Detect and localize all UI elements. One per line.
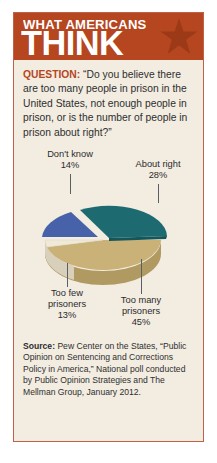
pie-chart: Don't know 14% About right 28% [14, 147, 203, 337]
star-icon [159, 17, 199, 57]
infographic-panel: WHAT AMERICANS THINK QUESTION: “Do you b… [13, 12, 204, 442]
question-label: QUESTION: [23, 69, 80, 80]
pie-label-too-few-value: 13% [36, 310, 98, 321]
pie-label-too-few-line2: prisoners [36, 299, 98, 310]
source-block: Source: Pew Center on the States, “Publi… [23, 341, 194, 398]
pie-label-too-many-value: 45% [107, 317, 175, 328]
pie-label-about-right-name: About right [120, 159, 196, 170]
pie-label-dont-know-name: Don't know [34, 149, 106, 160]
pie-label-dont-know-value: 14% [34, 160, 106, 171]
pie-label-too-many: Too many prisoners 45% [107, 295, 175, 329]
question-block: QUESTION: “Do you believe there are too … [23, 68, 194, 140]
pie-label-too-many-line1: Too many [107, 295, 175, 306]
pie-label-too-few-line1: Too few [36, 288, 98, 299]
pie-graphic [14, 177, 205, 289]
pie-label-dont-know: Don't know 14% [34, 149, 106, 171]
leader-line-too-many [141, 259, 142, 294]
header-banner: WHAT AMERICANS THINK [14, 13, 203, 60]
pie-label-too-few: Too few prisoners 13% [36, 288, 98, 322]
pie-label-too-many-line2: prisoners [107, 306, 175, 317]
leader-line-too-few [67, 263, 68, 287]
source-label: Source: [23, 341, 55, 351]
header-title-line2: THINK [21, 25, 123, 60]
